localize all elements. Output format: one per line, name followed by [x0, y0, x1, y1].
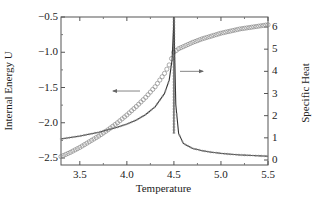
- y2-tick-label: 5: [272, 43, 278, 54]
- y2-tick-label: 2: [272, 110, 278, 121]
- y-tick-label: −2.5: [38, 152, 58, 163]
- x-axis-title: Temperature: [0, 182, 317, 194]
- y-tick-label: −1.5: [38, 82, 58, 93]
- y2-axis-title: Specific Heat: [299, 63, 311, 123]
- y-tick-label: −1.0: [38, 46, 58, 57]
- x-tick-label: 4.0: [120, 169, 134, 180]
- y2-tick-label: 4: [272, 65, 278, 76]
- x-tick-label: 3.5: [73, 169, 87, 180]
- x-tick-label: 5.5: [261, 169, 275, 180]
- x-tick-label: 5.0: [214, 169, 228, 180]
- y-tick-label: −0.5: [38, 11, 58, 22]
- series-specific-heat: [60, 17, 269, 157]
- y2-tick-label: 1: [272, 132, 278, 143]
- y-tick-label: −2.0: [38, 117, 58, 128]
- y2-tick-label: 6: [272, 21, 278, 32]
- y2-tick-label: 0: [272, 154, 278, 165]
- x-tick-label: 4.5: [167, 169, 181, 180]
- y2-tick-label: 3: [272, 88, 278, 99]
- y-axis-title: Internal Energy U: [2, 51, 14, 130]
